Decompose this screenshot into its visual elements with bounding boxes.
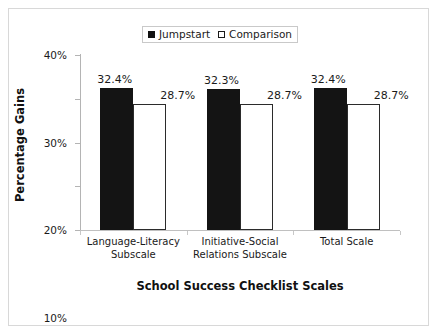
y-tick-label: 20%	[44, 224, 67, 236]
y-tick-mark: 20%	[75, 143, 80, 144]
open-square-marker-icon	[218, 31, 225, 38]
bar-value-label: 32.3%	[204, 75, 239, 86]
x-category-label-line: Total Scale	[293, 236, 400, 249]
bar-comparison-0	[133, 104, 166, 230]
chart-legend: Jumpstart Comparison	[142, 26, 298, 43]
y-tick-label: 30%	[44, 137, 67, 149]
x-axis-line	[80, 230, 400, 231]
bar-jumpstart-2	[314, 88, 347, 230]
y-tick-mark: 30%	[75, 99, 80, 100]
y-axis-title-text: Percentage Gains	[13, 88, 27, 202]
legend-label-jumpstart: Jumpstart	[159, 29, 210, 40]
x-category-label-line: Relations Subscale	[187, 249, 294, 262]
bar-value-label: 28.7%	[160, 90, 195, 101]
legend-label-comparison: Comparison	[229, 29, 292, 40]
y-tick-label: 40%	[44, 49, 67, 61]
bar-comparison-1	[240, 104, 273, 230]
bar-value-label: 28.7%	[267, 90, 302, 101]
bar-jumpstart-0	[100, 88, 133, 230]
x-category-label: Total Scale	[293, 236, 400, 249]
plot-area: 0%10%20%30%40%32.4%28.7%32.3%28.7%32.4%2…	[80, 55, 400, 230]
x-tick-mark	[400, 231, 401, 235]
legend-item-comparison: Comparison	[218, 29, 292, 40]
bar-jumpstart-1	[207, 89, 240, 230]
x-tick-mark	[187, 231, 188, 235]
filled-square-marker-icon	[148, 31, 155, 38]
bar-value-label: 32.4%	[311, 74, 346, 85]
y-tick-mark: 40%	[75, 55, 80, 56]
y-axis-title: Percentage Gains	[12, 60, 28, 230]
bar-value-label: 32.4%	[97, 74, 132, 85]
chart-figure: Jumpstart Comparison 0%10%20%30%40%32.4%…	[0, 0, 439, 336]
x-category-label: Initiative-SocialRelations Subscale	[187, 236, 294, 261]
y-tick-mark: 10%	[75, 186, 80, 187]
x-category-label-line: Language-Literacy	[80, 236, 187, 249]
legend-item-jumpstart: Jumpstart	[148, 29, 210, 40]
x-category-label-line: Initiative-Social	[187, 236, 294, 249]
x-tick-mark	[80, 231, 81, 235]
x-category-label: Language-LiteracySubscale	[80, 236, 187, 261]
y-tick-label: 10%	[44, 312, 67, 324]
bar-comparison-2	[347, 104, 380, 230]
bar-value-label: 28.7%	[374, 90, 409, 101]
x-axis-title: School Success Checklist Scales	[80, 279, 400, 293]
x-category-label-line: Subscale	[80, 249, 187, 262]
x-tick-mark	[293, 231, 294, 235]
